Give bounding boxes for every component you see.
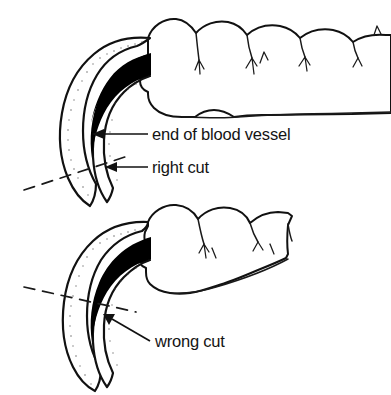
wrong-cut-label: wrong cut: [154, 332, 225, 350]
claw-trimming-figure: end of blood vessel right cut: [0, 0, 391, 395]
right-cut-label: right cut: [152, 158, 210, 176]
diagram-canvas: end of blood vessel right cut: [0, 0, 391, 395]
blood-vessel-label: end of blood vessel: [152, 125, 290, 143]
